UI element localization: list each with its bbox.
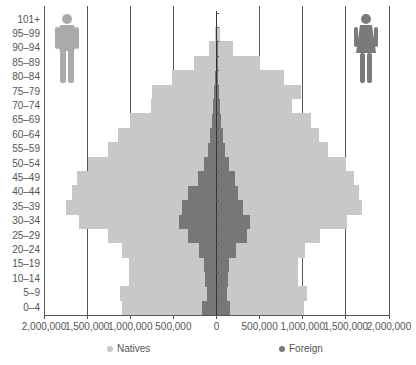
axis-tick — [216, 128, 219, 129]
bar-natives-female — [217, 27, 221, 42]
bar-foreign-female — [217, 257, 230, 272]
bar-natives-male — [194, 56, 217, 71]
bar-natives-male — [118, 128, 216, 143]
bar-natives-male — [77, 171, 217, 186]
bar-foreign-male — [199, 243, 217, 258]
bar-foreign-female — [217, 157, 230, 172]
age-group-label: 45–49 — [0, 172, 40, 184]
age-group-label: 65–69 — [0, 114, 40, 126]
axis-tick — [216, 27, 219, 28]
axis-tick — [216, 99, 219, 100]
age-group-label: 95–99 — [0, 28, 40, 40]
bar-foreign-male — [182, 200, 216, 215]
age-group-label: 90–94 — [0, 42, 40, 54]
bar-natives-male — [151, 99, 217, 114]
x-tick-label: 1,500,000 — [65, 321, 110, 332]
axis-tick — [216, 41, 219, 42]
natives-swatch — [107, 346, 113, 352]
axis-tick — [216, 157, 219, 158]
axis-tick — [216, 70, 219, 71]
age-group-label: 75–79 — [0, 86, 40, 98]
x-axis-tick — [259, 315, 260, 319]
age-group-label: 5–9 — [0, 287, 40, 299]
x-axis-tick — [389, 315, 390, 319]
bar-natives-female — [217, 41, 233, 56]
age-group-label: 80–84 — [0, 71, 40, 83]
bar-foreign-female — [217, 301, 230, 316]
bar-foreign-female — [217, 200, 244, 215]
age-group-label: 55–59 — [0, 143, 40, 155]
legend-natives-label: Natives — [117, 343, 150, 354]
x-tick-label: 500,000 — [155, 321, 191, 332]
axis-tick — [216, 56, 219, 57]
axis-tick — [216, 286, 219, 287]
x-axis-tick — [216, 315, 217, 319]
age-group-label: 15–19 — [0, 258, 40, 270]
bar-foreign-female — [217, 142, 226, 157]
foreign-swatch — [279, 346, 285, 352]
axis-tick — [216, 171, 219, 172]
axis-tick — [216, 185, 219, 186]
bar-foreign-female — [217, 99, 220, 114]
age-group-label: 70–74 — [0, 100, 40, 112]
bar-natives-female — [217, 70, 285, 85]
x-tick-label: 1,000,000 — [281, 321, 326, 332]
bar-natives-female — [217, 157, 346, 172]
x-axis-tick — [44, 315, 45, 319]
legend-natives: Natives — [107, 343, 150, 354]
bar-natives-female — [217, 272, 298, 287]
gridline — [389, 6, 390, 316]
x-tick-label: 1,500,000 — [324, 321, 369, 332]
age-group-label: 35–39 — [0, 201, 40, 213]
age-group-label: 60–64 — [0, 129, 40, 141]
axis-tick — [216, 301, 219, 302]
bar-natives-male — [130, 113, 216, 128]
axis-tick — [216, 229, 219, 230]
x-axis-tick — [130, 315, 131, 319]
axis-tick — [216, 113, 219, 114]
bar-foreign-male — [204, 257, 217, 272]
axis-tick — [216, 257, 219, 258]
axis-tick — [216, 13, 219, 14]
bar-foreign-male — [204, 157, 217, 172]
age-group-label: 30–34 — [0, 215, 40, 227]
bar-foreign-female — [217, 113, 222, 128]
bar-foreign-male — [202, 301, 216, 316]
axis-tick — [216, 243, 219, 244]
x-tick-label: 0 — [214, 321, 220, 332]
age-group-label: 50–54 — [0, 158, 40, 170]
bar-natives-female — [217, 142, 328, 157]
age-group-label: 101+ — [0, 14, 40, 26]
age-group-label: 10–14 — [0, 273, 40, 285]
bar-foreign-female — [217, 272, 228, 287]
x-tick-label: 1,000,000 — [108, 321, 153, 332]
bar-natives-female — [217, 171, 354, 186]
x-tick-label: 2,000,000 — [22, 321, 67, 332]
bar-foreign-female — [217, 286, 228, 301]
bar-natives-female — [217, 56, 260, 71]
age-group-label: 0–4 — [0, 302, 40, 314]
bar-foreign-male — [205, 272, 217, 287]
age-group-label: 85–89 — [0, 57, 40, 69]
axis-tick — [216, 214, 219, 215]
x-tick-label: 500,000 — [242, 321, 278, 332]
x-axis-tick — [87, 315, 88, 319]
bar-foreign-female — [217, 229, 247, 244]
bar-foreign-female — [217, 214, 250, 229]
axis-tick — [216, 200, 219, 201]
male-figure-icon — [54, 13, 80, 85]
gridline — [44, 6, 45, 316]
age-group-label: 25–29 — [0, 230, 40, 242]
bar-foreign-male — [179, 214, 217, 229]
age-group-label: 20–24 — [0, 244, 40, 256]
x-axis-tick — [302, 315, 303, 319]
x-axis-tick — [173, 315, 174, 319]
bar-natives-male — [120, 286, 217, 301]
bar-natives-male — [152, 85, 217, 100]
axis-tick — [216, 142, 219, 143]
axis-tick — [216, 85, 219, 86]
bar-natives-female — [217, 85, 302, 100]
bar-foreign-female — [217, 243, 236, 258]
bar-foreign-male — [198, 171, 217, 186]
bar-foreign-male — [207, 286, 217, 301]
